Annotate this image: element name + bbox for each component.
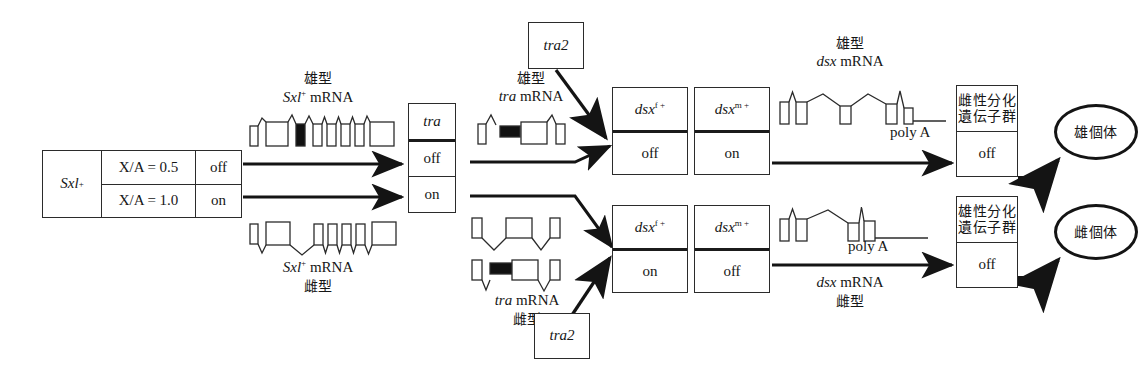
- sxl-mrna-male-transcript-icon: [248, 112, 398, 148]
- dsx-m-female-name-row: dsxm +: [695, 206, 769, 248]
- table-row: X/A = 0.5 off: [102, 151, 241, 184]
- dsx-f-female-name-row: dsxf +: [613, 206, 687, 248]
- tra-gene-name: tra: [423, 113, 441, 130]
- sxl-master-table: Sxl+ X/A = 0.5 off X/A = 1.0 on: [42, 150, 242, 218]
- dsx-f-male-name-row: dsxf +: [613, 88, 687, 130]
- dsx-m-female-name: dsx: [715, 219, 735, 235]
- sxl-mrna-male-sup: +: [301, 88, 306, 98]
- tra-male-state: off: [423, 150, 440, 167]
- tra-male-state-row: off: [409, 139, 455, 177]
- dsx-mrna-female-name: dsx: [816, 274, 836, 290]
- tra-female-state-row: on: [409, 176, 455, 212]
- tra-mrna-male-suffix: mRNA: [520, 88, 563, 104]
- dsx-m-male-state: on: [725, 145, 740, 162]
- sxl-mrna-male-type: 雄型: [238, 70, 398, 86]
- dsx-mrna-male-type: 雄型: [770, 35, 930, 51]
- dsx-mrna-male-suffix: mRNA: [840, 53, 883, 69]
- female-individual-label: 雌個体: [1074, 224, 1118, 240]
- dsx-f-male-state: off: [641, 145, 658, 162]
- sxl-mrna-female-type: 雌型: [238, 278, 398, 294]
- male-diff-genes-line2: 遺伝子群: [958, 219, 1016, 235]
- tra2-top-label: tra2: [543, 37, 568, 54]
- dsx-f-male-state-row: off: [613, 130, 687, 175]
- tra2-top-box: tra2: [528, 22, 584, 69]
- diagram-canvas: Sxl+ X/A = 0.5 off X/A = 1.0 on 雄型 Sxl+ …: [0, 0, 1140, 369]
- dsx-f-female-sup: f +: [655, 218, 665, 228]
- dsx-mrna-male-caption: 雄型 dsx mRNA: [770, 35, 930, 70]
- female-diff-genes-state-row: off: [957, 131, 1017, 177]
- sxl-mrna-male-name: Sxl: [283, 89, 301, 105]
- sxl-mrna-female-caption: Sxl+ mRNA 雌型: [238, 258, 398, 294]
- sxl-gene-sup: +: [79, 179, 84, 189]
- tra-gene-box: tra off on: [408, 103, 456, 213]
- sxl-condition-1: X/A = 1.0: [119, 192, 179, 209]
- dsx-mrna-female-type: 雌型: [770, 293, 930, 309]
- sxl-gene-label: Sxl+: [43, 151, 102, 217]
- sxl-state-0: off: [210, 159, 227, 176]
- dsx-m-female-pathway-box: dsxm + off: [694, 205, 770, 293]
- tra-female-state: on: [425, 186, 440, 203]
- dsx-f-female-pathway-box: dsxf + on: [612, 205, 688, 293]
- dsx-mrna-male-polya-label: poly A: [890, 124, 930, 141]
- dsx-mrna-female-suffix: mRNA: [840, 274, 883, 290]
- tra-mrna-male-caption: 雄型 tra mRNA: [466, 70, 596, 105]
- dsx-mrna-male-name: dsx: [816, 53, 836, 69]
- dsx-f-male-name: dsx: [635, 101, 655, 117]
- female-differentiation-genes-box: 雌性分化 遺伝子群 off: [956, 85, 1018, 177]
- table-row: X/A = 1.0 on: [102, 184, 241, 218]
- tra2-bottom-box: tra2: [534, 313, 590, 359]
- male-diff-genes-state: off: [978, 256, 995, 273]
- dsx-f-male-sup: f +: [655, 100, 665, 110]
- sxl-condition-0: X/A = 0.5: [119, 159, 179, 176]
- dsx-f-female-state: on: [643, 263, 658, 280]
- dsx-f-male-pathway-box: dsxf + off: [612, 87, 688, 175]
- sxl-mrna-female-suffix: mRNA: [310, 259, 353, 275]
- female-diff-genes-label: 雌性分化 遺伝子群: [957, 86, 1017, 131]
- male-differentiation-genes-box: 雄性分化 遺伝子群 off: [956, 196, 1018, 288]
- dsx-f-female-state-row: on: [613, 248, 687, 293]
- sxl-state-1: on: [211, 192, 226, 209]
- female-individual-oval: 雌個体: [1054, 204, 1138, 260]
- tra-mrna-male-type: 雄型: [466, 70, 596, 86]
- male-individual-label: 雄個体: [1074, 124, 1118, 140]
- dsx-m-female-state-row: off: [695, 248, 769, 293]
- dsx-m-male-name-row: dsxm +: [695, 88, 769, 130]
- female-diff-genes-state: off: [978, 145, 995, 162]
- dsx-m-female-state: off: [723, 263, 740, 280]
- dsx-m-male-name: dsx: [715, 101, 735, 117]
- tra-mrna-female-suffix: mRNA: [516, 292, 559, 308]
- dsx-m-female-sup: m +: [735, 218, 749, 228]
- dsx-mrna-male-transcript-icon: [778, 88, 948, 128]
- male-diff-genes-line1: 雄性分化: [958, 203, 1016, 219]
- sxl-mrna-female-name: Sxl: [283, 259, 301, 275]
- tra-mrna-male-transcript-icon: [476, 112, 586, 146]
- male-diff-genes-state-row: off: [957, 242, 1017, 288]
- male-individual-oval: 雄個体: [1054, 104, 1138, 160]
- tra2-bottom-label: tra2: [549, 327, 574, 344]
- dsx-mrna-female-caption: dsx mRNA 雌型: [770, 274, 930, 309]
- sxl-mrna-male-suffix: mRNA: [310, 89, 353, 105]
- dsx-m-male-state-row: on: [695, 130, 769, 175]
- sxl-mrna-female-transcript-icon: [248, 222, 398, 260]
- sxl-mrna-female-sup: +: [301, 258, 306, 268]
- dsx-f-female-name: dsx: [635, 219, 655, 235]
- tra-mrna-male-name: tra: [499, 88, 517, 104]
- dsx-m-male-sup: m +: [735, 100, 749, 110]
- tra-gene-name-row: tra: [409, 104, 455, 139]
- tra-mrna-female-transcript-icon: [470, 218, 590, 298]
- female-diff-genes-line1: 雌性分化: [958, 92, 1016, 108]
- sxl-mrna-male-caption: 雄型 Sxl+ mRNA: [238, 70, 398, 106]
- male-diff-genes-label: 雄性分化 遺伝子群: [957, 197, 1017, 242]
- dsx-m-male-pathway-box: dsxm + on: [694, 87, 770, 175]
- female-diff-genes-line2: 遺伝子群: [958, 108, 1016, 124]
- sxl-gene-name: Sxl: [60, 175, 78, 192]
- dsx-mrna-female-polya-label: poly A: [848, 238, 888, 255]
- tra-mrna-female-name: tra: [495, 292, 513, 308]
